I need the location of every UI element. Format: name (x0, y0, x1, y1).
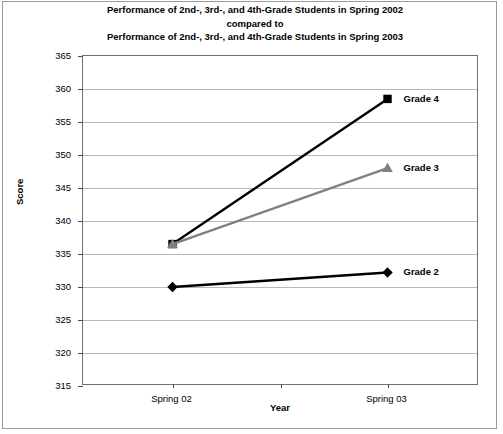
chart-title: Performance of 2nd-, 3rd-, and 4th-Grade… (60, 3, 450, 44)
chart-title-line-3: Performance of 2nd-, 3rd-, and 4th-Grade… (60, 30, 450, 44)
chart-title-line-2: compared to (60, 17, 450, 31)
y-axis-tick-label: 315 (0, 380, 71, 391)
data-point-marker (382, 163, 393, 172)
chart-figure: Performance of 2nd-, 3rd-, and 4th-Grade… (0, 0, 503, 434)
series-label-grade-2: Grade 2 (404, 266, 439, 277)
series-lines (83, 56, 479, 386)
series-line-grade-4 (173, 99, 388, 244)
plot-area (82, 55, 478, 385)
series-line-grade-3 (173, 168, 388, 244)
series-label-grade-4: Grade 4 (404, 92, 439, 103)
y-axis-tick-label: 335 (0, 248, 71, 259)
plot-inner (83, 56, 477, 384)
data-point-marker (382, 267, 392, 277)
data-point-marker (167, 282, 177, 292)
chart-title-line-1: Performance of 2nd-, 3rd-, and 4th-Grade… (60, 3, 450, 17)
y-axis-tick (78, 386, 83, 387)
y-axis-tick-label: 360 (0, 83, 71, 94)
y-axis-tick-label: 340 (0, 215, 71, 226)
y-axis-tick-label: 355 (0, 116, 71, 127)
y-axis-tick-label: 330 (0, 281, 71, 292)
y-axis-tick-label: 320 (0, 347, 71, 358)
x-axis-title: Year (82, 402, 478, 413)
y-axis-tick-label: 325 (0, 314, 71, 325)
y-axis-tick-label: 345 (0, 182, 71, 193)
series-line-grade-2 (173, 272, 388, 287)
series-label-grade-3: Grade 3 (404, 162, 439, 173)
y-axis-tick-label: 365 (0, 50, 71, 61)
data-point-marker (383, 95, 391, 103)
y-axis-tick-label: 350 (0, 149, 71, 160)
